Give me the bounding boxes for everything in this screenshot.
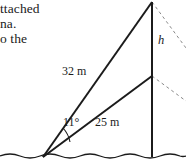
triangle-diagram — [0, 0, 186, 166]
label-angle-11deg: 11° — [63, 115, 79, 130]
sight-line-32m — [43, 2, 152, 157]
figure-page: ttached na. o the 32 m 11° 25 m h — [0, 0, 186, 166]
dashed-line-lower — [152, 76, 186, 101]
label-height-h: h — [158, 33, 164, 48]
label-hypotenuse-25m: 25 m — [95, 115, 119, 130]
ground-line — [0, 154, 186, 158]
label-hypotenuse-32m: 32 m — [62, 64, 86, 79]
